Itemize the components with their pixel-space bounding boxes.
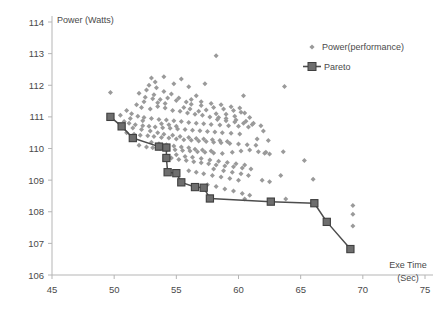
scatter-point: [217, 123, 222, 128]
y-tick-label: 106: [28, 270, 44, 281]
scatter-point: [212, 130, 217, 135]
y-tick-label: 114: [29, 17, 44, 28]
scatter-point: [186, 84, 191, 89]
scatter-point: [204, 107, 209, 112]
scatter-point: [161, 89, 166, 94]
scatter-point: [237, 131, 242, 136]
scatter-point: [196, 109, 201, 114]
scatter-point: [194, 93, 199, 98]
scatter-point: [170, 133, 175, 138]
pareto-marker: [178, 179, 185, 186]
scatter-point: [236, 178, 241, 183]
scatter-point: [229, 131, 234, 136]
legend-item-power-performance: Power(performance): [309, 42, 404, 52]
scatter-point: [134, 102, 139, 107]
scatter-point: [200, 113, 205, 118]
scatter-point: [149, 116, 154, 121]
scatter-point: [148, 106, 153, 111]
pareto-marker: [164, 169, 171, 176]
scatter-point: [118, 113, 123, 118]
y-tick-label: 111: [30, 111, 44, 122]
pareto-marker: [267, 198, 274, 205]
scatter-point: [108, 90, 113, 95]
scatter-point: [155, 130, 160, 135]
scatter-point: [190, 128, 195, 133]
scatter-point: [173, 147, 178, 152]
scatter-point: [240, 191, 245, 196]
scatter-point: [148, 129, 153, 134]
legend-label-power-performance: Power(performance): [322, 42, 404, 52]
scatter-point: [211, 105, 216, 110]
scatter-point: [174, 152, 179, 157]
scatter-point: [267, 179, 272, 184]
scatter-point: [150, 145, 155, 150]
scatter-point: [174, 137, 179, 142]
scatter-point: [247, 193, 252, 198]
y-tick-label: 108: [28, 206, 44, 217]
y-tick-label: 110: [29, 143, 44, 154]
scatter-chart: 106107108109110111112113114 455055606570…: [0, 0, 440, 329]
scatter-point: [350, 212, 355, 217]
scatter-point: [145, 133, 150, 138]
y-axis-ticks: [48, 22, 52, 275]
scatter-point: [278, 173, 283, 178]
scatter-point: [137, 91, 142, 96]
scatter-point: [245, 142, 250, 147]
pareto-marker: [129, 134, 136, 141]
x-tick-label: 75: [420, 284, 431, 295]
scatter-point: [156, 117, 161, 122]
x-axis-ticks: [52, 275, 425, 279]
scatter-point: [302, 158, 307, 163]
scatter-point: [151, 134, 156, 139]
scatter-point: [206, 161, 211, 166]
scatter-point: [153, 124, 158, 129]
scatter-point: [199, 99, 204, 104]
scatter-point: [350, 223, 355, 228]
scatter-point: [211, 167, 216, 172]
scatter-point: [231, 108, 236, 113]
scatter-point: [232, 114, 237, 119]
scatter-point: [350, 203, 355, 208]
scatter-point: [188, 106, 193, 111]
scatter-point: [247, 148, 252, 153]
scatter-point: [178, 134, 183, 139]
x-tick-label: 65: [295, 284, 306, 295]
x-tick-label: 60: [233, 284, 244, 295]
pareto-marker: [173, 170, 180, 177]
scatter-point: [229, 104, 234, 109]
scatter-point: [214, 53, 219, 58]
x-tick-label: 55: [171, 284, 182, 295]
scatter-point: [248, 167, 253, 172]
scatter-point: [242, 111, 247, 116]
pareto-marker: [347, 245, 354, 252]
scatter-point: [178, 109, 183, 114]
scatter-point: [129, 111, 134, 116]
scatter-point: [219, 102, 224, 107]
scatter-point: [201, 121, 206, 126]
pareto-marker: [311, 200, 318, 207]
scatter-point: [179, 76, 184, 81]
chart-legend: Power(performance) Pareto: [303, 42, 404, 72]
x-axis-tick-labels: 45505560657075: [47, 284, 431, 295]
scatter-point: [194, 121, 199, 126]
scatter-point: [222, 186, 227, 191]
pareto-marker: [206, 195, 213, 202]
scatter-point: [192, 112, 197, 117]
scatter-point: [266, 138, 271, 143]
scatter-point: [220, 130, 225, 135]
scatter-point: [219, 174, 224, 179]
scatter-point: [214, 111, 219, 116]
scatter-point: [171, 118, 176, 123]
scatter-point: [238, 171, 243, 176]
scatter-point: [135, 114, 140, 119]
scatter-point: [216, 159, 221, 164]
scatter-point: [184, 100, 189, 105]
scatter-point: [186, 120, 191, 125]
x-tick-label: 70: [358, 284, 369, 295]
scatter-point: [163, 106, 168, 111]
scatter-point: [185, 111, 190, 116]
scatter-point: [202, 81, 207, 86]
pareto-marker: [107, 113, 114, 120]
scatter-point: [281, 149, 286, 154]
scatter-point: [238, 110, 243, 115]
